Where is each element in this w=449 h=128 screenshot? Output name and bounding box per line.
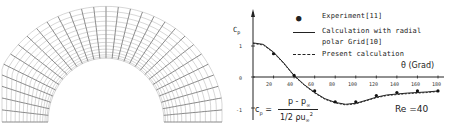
formula-fraction-bar [278,109,318,110]
legend-calc-radial-line2: polar Grid[10] [322,38,382,46]
legend-calc-radial-line1: Calculation with radial [322,27,421,35]
legend-dot-icon: ● [296,13,301,23]
x-tick-80: 80 [329,81,335,87]
pressure-coefficient-chart: Cp 1 0 -1 20 40 60 80 100 120 140 160 18… [225,0,449,128]
curvilinear-grid-figure [0,0,225,128]
y-tick-1: 1 [239,43,242,49]
legend-solid-line-icon [293,32,315,33]
x-axis-label: θ (Grad) [401,61,434,70]
x-tick-140: 140 [390,81,399,87]
x-tick-40: 40 [287,81,293,87]
formula-numerator: p - p∞ [288,97,310,108]
y-tick-0: 0 [239,75,242,81]
x-tick-180: 180 [432,81,441,87]
formula-denominator: 1/2 ρu∞2 [280,111,313,123]
x-tick-100: 100 [348,81,357,87]
legend-dashed-line-icon [293,54,315,55]
x-tick-160: 160 [411,81,420,87]
y-axis-label: Cp [233,26,240,35]
formula-lhs: cp = [255,105,272,116]
y-tick-minus1: -1 [236,107,242,113]
legend-present-calc: Present calculation [322,50,404,58]
x-tick-20: 20 [266,81,272,87]
x-tick-60: 60 [308,81,314,87]
grid-mesh [0,0,225,128]
x-tick-120: 120 [369,81,378,87]
legend-experiment: Experiment[11] [322,12,382,20]
reynolds-number-label: Re =40 [395,104,428,114]
